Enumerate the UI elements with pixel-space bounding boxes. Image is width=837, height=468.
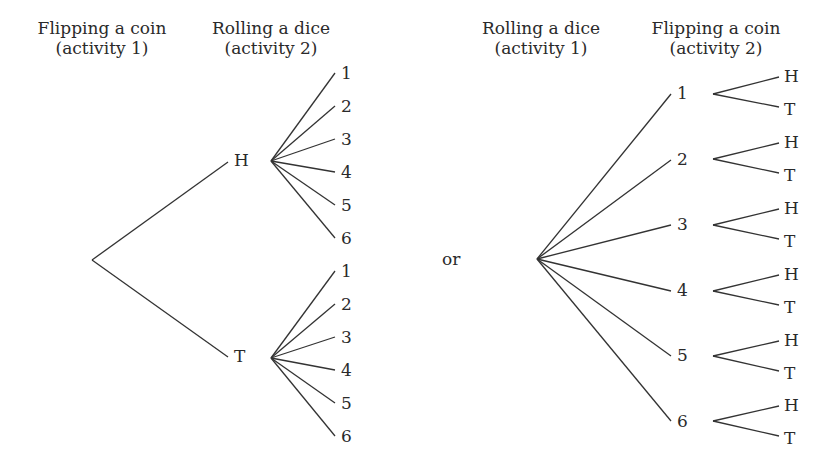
branch-root-to-1 bbox=[537, 94, 671, 259]
coin-outcome-label: H bbox=[784, 66, 799, 86]
branch-T-to-3 bbox=[271, 337, 335, 358]
dice-outcome-label: 2 bbox=[341, 294, 352, 314]
coin-outcome-label: T bbox=[784, 428, 796, 448]
branch-root-to-6 bbox=[537, 259, 671, 421]
branch-4-to-H bbox=[713, 275, 779, 291]
dice-outcome-label: 5 bbox=[341, 195, 352, 215]
dice-outcome-label: 3 bbox=[677, 214, 688, 234]
dice-outcome-label: 5 bbox=[341, 393, 352, 413]
tree-diagrams-svg: H123456T123456 or 1HT2HT3HT4HT5HT6HT bbox=[0, 0, 837, 468]
left-tree-coin-then-dice: H123456T123456 bbox=[92, 63, 352, 446]
branch-H-to-4 bbox=[271, 161, 335, 172]
branch-H-to-5 bbox=[271, 161, 335, 205]
dice-outcome-label: 4 bbox=[677, 280, 688, 300]
dice-outcome-label: 4 bbox=[341, 360, 352, 380]
coin-outcome-label: T bbox=[234, 346, 246, 366]
branch-1-to-H bbox=[713, 77, 779, 94]
branch-T-to-1 bbox=[271, 271, 335, 358]
dice-outcome-label: 2 bbox=[341, 96, 352, 116]
branch-root-to-2 bbox=[537, 160, 671, 259]
coin-outcome-label: H bbox=[784, 198, 799, 218]
branch-H-to-2 bbox=[271, 106, 335, 161]
branch-root-to-3 bbox=[537, 225, 671, 259]
coin-outcome-label: T bbox=[784, 99, 796, 119]
branch-root-to-5 bbox=[537, 259, 671, 356]
dice-outcome-label: 3 bbox=[341, 327, 352, 347]
branch-root-to-4 bbox=[537, 259, 671, 291]
coin-outcome-label: T bbox=[784, 363, 796, 383]
branch-3-to-H bbox=[713, 209, 779, 225]
dice-outcome-label: 6 bbox=[677, 411, 688, 431]
tree-diagram-figure: Flipping a coin (activity 1) Rolling a d… bbox=[0, 0, 837, 468]
dice-outcome-label: 1 bbox=[677, 83, 688, 103]
coin-outcome-label: T bbox=[784, 231, 796, 251]
branch-2-to-H bbox=[713, 143, 779, 159]
coin-outcome-label: H bbox=[784, 330, 799, 350]
right-tree-dice-then-coin: 1HT2HT3HT4HT5HT6HT bbox=[537, 66, 799, 448]
branch-1-to-T bbox=[713, 94, 779, 107]
branch-4-to-T bbox=[713, 291, 779, 305]
branch-H-to-3 bbox=[271, 139, 335, 161]
coin-outcome-label: T bbox=[784, 297, 796, 317]
dice-outcome-label: 6 bbox=[341, 426, 352, 446]
branch-5-to-H bbox=[713, 341, 779, 356]
branch-H-to-6 bbox=[271, 161, 335, 238]
branch-root-to-H bbox=[92, 162, 228, 260]
coin-outcome-label: H bbox=[234, 150, 249, 170]
dice-outcome-label: 6 bbox=[341, 228, 352, 248]
dice-outcome-label: 4 bbox=[341, 162, 352, 182]
dice-outcome-label: 1 bbox=[341, 261, 352, 281]
coin-outcome-label: H bbox=[784, 395, 799, 415]
branch-H-to-1 bbox=[271, 73, 335, 161]
branch-5-to-T bbox=[713, 356, 779, 371]
branch-2-to-T bbox=[713, 159, 779, 173]
branch-T-to-2 bbox=[271, 304, 335, 358]
dice-outcome-label: 2 bbox=[677, 149, 688, 169]
dice-outcome-label: 3 bbox=[341, 129, 352, 149]
coin-outcome-label: H bbox=[784, 264, 799, 284]
branch-6-to-T bbox=[713, 421, 779, 436]
branch-3-to-T bbox=[713, 225, 779, 239]
coin-outcome-label: T bbox=[784, 165, 796, 185]
coin-outcome-label: H bbox=[784, 132, 799, 152]
branch-root-to-T bbox=[92, 260, 228, 357]
or-separator: or bbox=[442, 249, 461, 269]
branch-6-to-H bbox=[713, 406, 779, 421]
dice-outcome-label: 1 bbox=[341, 63, 352, 83]
dice-outcome-label: 5 bbox=[677, 345, 688, 365]
